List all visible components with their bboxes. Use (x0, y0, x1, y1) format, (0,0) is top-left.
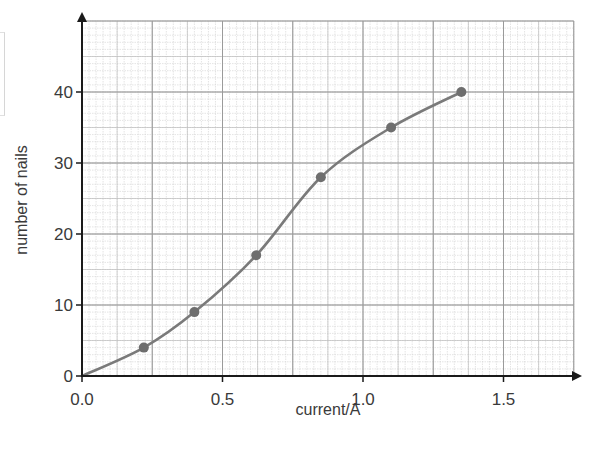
x-tick-label: 1.5 (492, 390, 516, 409)
tick-labels: 0.00.51.01.5010203040 (54, 83, 515, 409)
x-tick-label: 0.5 (211, 390, 235, 409)
data-point-marker (189, 307, 199, 317)
data-point-marker (456, 87, 466, 97)
x-axis-arrow-icon (572, 371, 582, 381)
chart-canvas: 0.00.51.01.5010203040 current/A number o… (0, 0, 592, 456)
y-tick-label: 0 (64, 367, 73, 386)
data-point-marker (251, 250, 261, 260)
tick-marks (76, 92, 504, 382)
y-axis-label: number of nails (13, 145, 30, 254)
y-axis-arrow-icon (77, 12, 87, 22)
y-tick-label: 30 (54, 154, 73, 173)
chart: 0.00.51.01.5010203040 current/A number o… (0, 0, 592, 456)
x-tick-label: 0.0 (70, 390, 94, 409)
y-tick-label: 10 (54, 296, 73, 315)
y-tick-label: 20 (54, 225, 73, 244)
minor-grid (82, 21, 574, 376)
data-point-marker (139, 343, 149, 353)
y-tick-label: 40 (54, 83, 73, 102)
data-point-marker (386, 123, 396, 133)
x-axis-label: current/A (296, 401, 361, 418)
data-point-marker (316, 172, 326, 182)
